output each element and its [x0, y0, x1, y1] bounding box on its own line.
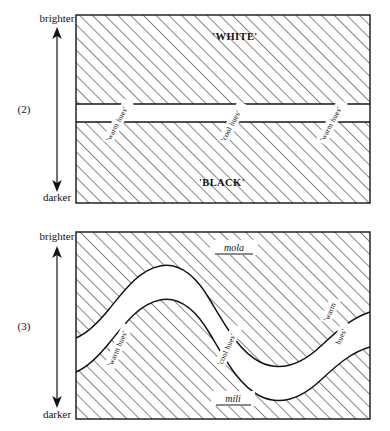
panel-2-darker-label: darker	[43, 191, 71, 203]
panel-3-brightness-arrow	[52, 246, 62, 408]
panel-2-lower-zone-label: 'BLACK'	[199, 177, 245, 188]
figure-container: brighter darker (2) 'WHITE' 'BLACK' 'war…	[0, 0, 390, 431]
panel-3: brighter darker (3) mola mili 'warm hues…	[18, 230, 370, 420]
panel-2: brighter darker (2) 'WHITE' 'BLACK' 'war…	[18, 12, 370, 203]
panel-3-upper-term: mola	[224, 242, 244, 253]
panel-2-number: (2)	[18, 103, 31, 116]
panel-2-upper-zone-label: 'WHITE'	[212, 31, 257, 42]
panel-2-brightness-arrow	[52, 27, 62, 192]
panel-3-darker-label: darker	[43, 408, 71, 420]
figure-svg: brighter darker (2) 'WHITE' 'BLACK' 'war…	[0, 0, 390, 431]
panel-2-brighter-label: brighter	[40, 12, 75, 24]
panel-3-brighter-label: brighter	[40, 230, 75, 242]
panel-3-number: (3)	[18, 320, 31, 333]
panel-3-lower-term: mili	[225, 393, 241, 404]
panel-3-lower-term-group: mili	[211, 391, 255, 406]
panel-2-upper-hatch	[76, 15, 370, 104]
panel-3-upper-term-group: mola	[210, 240, 258, 255]
